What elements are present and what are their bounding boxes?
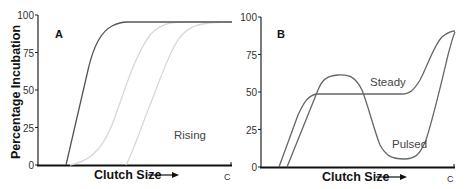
panel-a-arrow-head-icon: [172, 172, 179, 178]
panel-b: 100 75 50 25 0 B Steady Pulsed Clutch Si…: [240, 12, 455, 184]
series-steady: [279, 31, 455, 167]
panel-b-ytick-25: 25: [246, 125, 258, 136]
panel-b-arrow-head-icon: [400, 174, 407, 180]
y-axis-label: Percentage Incubation: [9, 25, 23, 159]
panel-a-ytick-25: 25: [23, 123, 35, 134]
panel-b-ytick-0: 0: [251, 162, 257, 173]
panel-a-curve-late: [126, 22, 232, 165]
panel-b-ytick-75: 75: [246, 50, 258, 61]
panel-a-ytick-50: 50: [23, 85, 35, 96]
panel-a-ytick-0: 0: [28, 160, 34, 171]
panel-a-ytick-75: 75: [23, 48, 35, 59]
annotation-rising: Rising: [174, 129, 206, 141]
panel-a-x-end-label: C: [224, 172, 231, 182]
panel-b-ytick-50: 50: [246, 87, 258, 98]
panel-b-y-ticks: 100 75 50 25 0: [240, 12, 261, 173]
panel-b-label: B: [277, 28, 285, 40]
figure: 100 75 50 25 0 Percentage Incubation A R…: [0, 0, 465, 189]
panel-b-x-end-label: C: [447, 174, 454, 184]
series-pulsed: [287, 32, 455, 167]
panel-a-curve-early: [66, 22, 232, 165]
annotation-steady: Steady: [370, 76, 406, 88]
panel-a-curve-middle: [70, 22, 232, 165]
panel-a: 100 75 50 25 0 Percentage Incubation A R…: [9, 10, 232, 182]
panel-a-ytick-100: 100: [17, 10, 34, 21]
panel-a-label: A: [55, 28, 63, 40]
panel-b-ytick-100: 100: [240, 12, 257, 23]
annotation-pulsed: Pulsed: [392, 138, 427, 150]
